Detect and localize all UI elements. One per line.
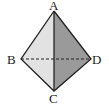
tetrahedron-diagram: A B D C [0, 0, 109, 104]
diagram-svg: A B D C [0, 0, 109, 104]
label-c: C [49, 91, 58, 104]
label-b: B [7, 52, 16, 67]
label-a: A [49, 0, 59, 13]
label-d: D [92, 52, 101, 67]
